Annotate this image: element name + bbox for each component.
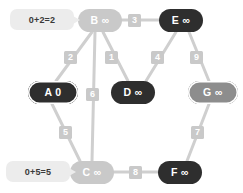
node-c-label: C ∞ <box>82 167 101 178</box>
node-b-label: B ∞ <box>90 15 109 26</box>
edge-e-d-weight: 4 <box>151 51 164 64</box>
edge-b-e-weight: 3 <box>128 14 141 27</box>
callout-b-distance-tail-icon <box>73 16 80 24</box>
callout-c-distance: 0+5=5 <box>6 161 70 182</box>
node-d-label: D ∞ <box>123 87 142 98</box>
node-c[interactable]: C ∞ <box>70 161 114 184</box>
node-a-label: A 0 <box>44 87 61 98</box>
node-g-label: G ∞ <box>203 87 223 98</box>
edge-e-g-weight: 9 <box>190 51 203 64</box>
node-a[interactable]: A 0 <box>28 81 78 104</box>
graph-diagram: 231654978 A 0B ∞C ∞D ∞E ∞F ∞G ∞ 0+2=20+5… <box>0 0 243 193</box>
node-g[interactable]: G ∞ <box>188 81 238 104</box>
callout-b-distance: 0+2=2 <box>10 9 74 30</box>
node-e-label: E ∞ <box>172 15 191 26</box>
edge-a-c-weight: 5 <box>59 126 72 139</box>
node-b[interactable]: B ∞ <box>78 9 122 32</box>
edge-b-a-weight: 2 <box>64 51 77 64</box>
node-d[interactable]: D ∞ <box>111 81 155 104</box>
edge-b-d-weight: 1 <box>105 51 118 64</box>
node-e[interactable]: E ∞ <box>159 9 203 32</box>
node-f[interactable]: F ∞ <box>158 161 202 184</box>
node-f-label: F ∞ <box>171 167 189 178</box>
callout-c-distance-text: 0+5=5 <box>25 167 52 177</box>
callout-b-distance-text: 0+2=2 <box>29 15 56 25</box>
callout-c-distance-tail-icon <box>69 168 76 176</box>
edge-c-f-weight: 8 <box>129 166 142 179</box>
edge-b-c-weight: 6 <box>86 88 99 101</box>
edge-g-f-weight: 7 <box>191 126 204 139</box>
